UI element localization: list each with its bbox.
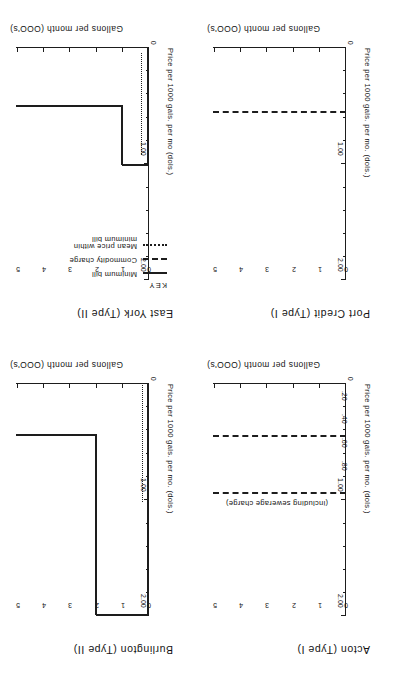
figure-sheet: Acton (Type I) 0 1 2 3 4 5	[0, 0, 394, 674]
series-burlington-mean-price	[142, 383, 143, 502]
y-tick-port-credit-100	[341, 163, 346, 164]
y-tick-label-burlington-200: 2.00	[140, 594, 147, 608]
x-tick-east-york-5	[17, 47, 18, 52]
y-tick-port-credit-140	[343, 210, 346, 211]
x-tick-label-burlington-5: 5	[10, 602, 26, 609]
y-tick-acton-120	[343, 523, 346, 524]
x-tick-acton-2	[293, 383, 294, 388]
x-tick-burlington-4	[43, 383, 44, 388]
x-axis-title-east-york: Gallons per month (OOO's)	[10, 24, 123, 34]
plot-area-burlington: 0 1 2 3 4 5 0 1.00 2.00	[16, 383, 149, 616]
y-tick-label-acton-020: .20	[341, 391, 348, 401]
x-tick-east-york-1	[122, 47, 123, 52]
y-axis-title-east-york: Price per 1000 gals. per mo (dols.)	[166, 48, 175, 175]
y-tick-port-credit-080	[343, 140, 346, 141]
y-tick-label-acton-0: 0	[347, 377, 354, 381]
x-tick-acton-4	[240, 383, 241, 388]
y-tick-label-east-york-200: 2.00	[140, 258, 147, 272]
y-tick-label-port-credit-0: 0	[347, 41, 354, 45]
x-tick-label-burlington-2: 2	[89, 602, 105, 609]
y-tick-acton-060	[343, 453, 346, 454]
x-tick-port-credit-1	[319, 47, 320, 52]
panel-port-credit: Port Credit (Type I) 0 1 2 3 4 5	[197, 0, 394, 334]
x-axis-line-port-credit	[213, 47, 346, 48]
x-tick-label-east-york-1: 1	[115, 266, 131, 273]
x-tick-port-credit-4	[240, 47, 241, 52]
annotation-acton-sewerage: (including sewerage charge)	[226, 499, 328, 508]
x-axis-title-port-credit: Gallons per month (OOO's)	[207, 24, 320, 34]
x-tick-label-east-york-3: 3	[62, 266, 78, 273]
y-tick-label-acton-060: .60	[341, 438, 348, 448]
x-tick-port-credit-2	[293, 47, 294, 52]
x-tick-label-port-credit-5: 5	[207, 266, 223, 273]
y-tick-acton-020	[343, 406, 346, 407]
panel-acton: Acton (Type I) 0 1 2 3 4 5	[197, 337, 394, 670]
x-tick-label-burlington-4: 4	[36, 602, 52, 609]
y-tick-acton-080	[343, 476, 346, 477]
series-east-york-minimum-bill-top	[122, 164, 149, 166]
y-tick-port-credit-020	[343, 70, 346, 71]
y-tick-label-port-credit-200: 2.00	[337, 258, 344, 272]
panel-title-acton: Acton (Type I)	[297, 644, 370, 656]
series-port-credit-commodity-charge	[213, 111, 346, 113]
y-tick-label-port-credit-100: 1.00	[337, 142, 344, 156]
series-burlington-minimum-bill-left	[147, 383, 149, 615]
x-tick-label-port-credit-2: 2	[286, 266, 302, 273]
y-tick-acton-100	[341, 499, 346, 500]
y-tick-label-burlington-100: 1.00	[140, 478, 147, 492]
series-east-york-minimum-bill-left	[147, 47, 149, 165]
x-tick-acton-5	[214, 383, 215, 388]
x-axis-title-burlington: Gallons per month (OOO's)	[10, 360, 123, 370]
y-tick-label-burlington-0: 0	[150, 377, 157, 381]
y-tick-port-credit-040	[343, 93, 346, 94]
panel-burlington: Burlington (Type II) 0 1 2 3 4 5	[0, 337, 197, 670]
x-tick-label-port-credit-4: 4	[233, 266, 249, 273]
y-tick-acton-160	[343, 569, 346, 570]
y-tick-port-credit-200	[341, 279, 346, 280]
x-tick-label-acton-4: 4	[233, 602, 249, 609]
y-tick-label-acton-080: .80	[341, 461, 348, 471]
panel-east-york: East York (Type II) KEY Minimum bill Com…	[0, 0, 197, 334]
plot-area-acton: 0 1 2 3 4 5 0 .20 .40 .60 .80 1.00	[213, 383, 346, 616]
y-axis-title-acton: Price per 1000 gals. per mo. (dols.)	[363, 384, 372, 514]
y-tick-label-acton-100: 1.00	[337, 478, 344, 492]
x-tick-label-east-york-2: 2	[89, 266, 105, 273]
x-tick-port-credit-5	[214, 47, 215, 52]
y-tick-east-york-180	[146, 256, 149, 257]
y-tick-label-acton-040: .40	[341, 414, 348, 424]
x-axis-line-acton	[213, 383, 346, 384]
series-acton-commodity-with-sewerage	[213, 492, 346, 494]
x-tick-acton-1	[319, 383, 320, 388]
y-tick-port-credit-120	[343, 187, 346, 188]
y-tick-label-east-york-0: 0	[150, 41, 157, 45]
y-tick-east-york-120	[146, 187, 149, 188]
series-acton-commodity-charge	[213, 435, 346, 437]
y-tick-acton-0	[341, 383, 346, 384]
x-tick-label-acton-2: 2	[286, 602, 302, 609]
x-tick-port-credit-3	[266, 47, 267, 52]
panel-title-port-credit: Port Credit (Type I)	[270, 308, 370, 320]
y-axis-title-port-credit: Price per 1000 gals. per mo. (dols.)	[363, 48, 372, 178]
x-tick-burlington-2	[96, 383, 97, 388]
legend-title: KEY	[148, 281, 167, 290]
y-tick-acton-200	[341, 615, 346, 616]
x-tick-label-burlington-1: 1	[115, 602, 131, 609]
x-tick-label-east-york-4: 4	[36, 266, 52, 273]
x-tick-burlington-5	[17, 383, 18, 388]
panel-title-burlington: Burlington (Type II)	[73, 644, 173, 656]
y-tick-acton-140	[343, 546, 346, 547]
x-tick-label-port-credit-3: 3	[259, 266, 275, 273]
series-burlington-minimum-bill-top	[96, 614, 149, 616]
x-tick-burlington-1	[122, 383, 123, 388]
series-burlington-commodity-charge	[16, 434, 97, 436]
series-east-york-mean-price	[141, 53, 142, 155]
series-east-york-minimum-bill-drop	[121, 105, 123, 165]
y-tick-east-york-140	[146, 210, 149, 211]
y-tick-port-credit-060	[343, 117, 346, 118]
plot-area-port-credit: 0 1 2 3 4 5 0 1.00 2.00	[213, 47, 346, 280]
y-tick-east-york-200	[144, 279, 149, 280]
series-burlington-minimum-bill-drop	[95, 434, 97, 615]
y-tick-port-credit-160	[343, 233, 346, 234]
y-tick-label-acton-200: 2.00	[337, 594, 344, 608]
x-tick-east-york-4	[43, 47, 44, 52]
